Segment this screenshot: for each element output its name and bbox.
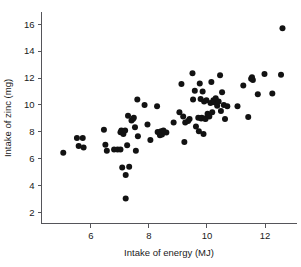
data-point [104, 148, 110, 154]
data-point [119, 165, 125, 171]
data-point [134, 97, 140, 103]
data-point [185, 118, 191, 124]
axis-lines [42, 12, 298, 224]
data-point [279, 25, 285, 31]
x-axis-ticks [91, 224, 265, 228]
data-point [102, 142, 108, 148]
data-point [222, 116, 228, 122]
data-point [147, 137, 153, 143]
x-tick-label: 10 [202, 230, 213, 241]
data-point [209, 109, 215, 115]
data-point [131, 115, 137, 121]
scatter-plot-figure: 246810121416 681012 Intake of energy (MJ… [0, 0, 301, 267]
data-point [255, 91, 261, 97]
plot-canvas: 246810121416 681012 Intake of energy (MJ… [0, 0, 301, 267]
data-point [178, 81, 184, 87]
data-point [80, 135, 86, 141]
data-point [216, 99, 222, 105]
y-tick-label: 2 [29, 207, 34, 218]
y-tick-label: 14 [24, 45, 35, 56]
data-point [144, 121, 150, 127]
data-point [245, 114, 251, 120]
x-tick-label: 6 [88, 230, 93, 241]
data-point [208, 79, 214, 85]
data-point [261, 71, 267, 77]
data-point [250, 77, 256, 83]
data-point [171, 119, 177, 125]
x-tick-label: 12 [260, 230, 271, 241]
data-point [201, 131, 207, 137]
data-point [135, 133, 141, 139]
data-point [269, 91, 275, 97]
data-point [200, 88, 206, 94]
data-point [224, 103, 230, 109]
data-point [180, 113, 186, 119]
data-point [240, 82, 246, 88]
data-point [122, 128, 128, 134]
data-point [132, 124, 138, 130]
y-axis-ticks [38, 24, 42, 213]
y-tick-label: 10 [24, 99, 35, 110]
y-axis-title: Intake of zinc (mg) [2, 79, 13, 157]
data-point [219, 89, 225, 95]
data-point [142, 102, 148, 108]
data-point [192, 88, 198, 94]
data-point [126, 164, 132, 170]
y-tick-label: 4 [29, 180, 34, 191]
x-axis-tick-labels: 681012 [88, 230, 270, 241]
y-axis-tick-labels: 246810121416 [24, 19, 35, 219]
data-point [81, 144, 87, 150]
data-points-layer [60, 25, 285, 201]
data-point [218, 108, 224, 114]
data-point [190, 97, 196, 103]
y-tick-label: 8 [29, 126, 34, 137]
data-point [60, 150, 66, 156]
data-point [189, 70, 195, 76]
data-point [123, 196, 129, 202]
data-point [278, 72, 284, 78]
y-tick-label: 16 [24, 19, 35, 30]
data-point [74, 135, 80, 141]
data-point [181, 139, 187, 145]
data-point [234, 103, 240, 109]
data-point [217, 72, 223, 78]
data-point [154, 103, 160, 109]
y-tick-label: 12 [24, 72, 35, 83]
data-point [197, 80, 203, 86]
data-point [117, 146, 123, 152]
data-point [160, 128, 166, 134]
data-point [123, 172, 129, 178]
data-point [101, 127, 107, 133]
data-point [124, 142, 130, 148]
x-axis-title: Intake of energy (MJ) [124, 247, 214, 258]
x-tick-label: 8 [146, 230, 151, 241]
y-tick-label: 6 [29, 153, 34, 164]
data-point [133, 148, 139, 154]
